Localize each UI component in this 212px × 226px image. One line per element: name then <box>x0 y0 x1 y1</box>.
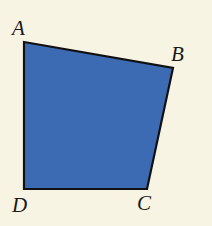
vertex-label-c: C <box>137 191 152 215</box>
quadrilateral-diagram: A B C D <box>0 0 212 226</box>
vertex-label-b: B <box>171 42 184 66</box>
vertex-label-d: D <box>11 193 27 217</box>
quadrilateral-abcd <box>24 42 173 189</box>
vertex-label-a: A <box>10 16 25 40</box>
